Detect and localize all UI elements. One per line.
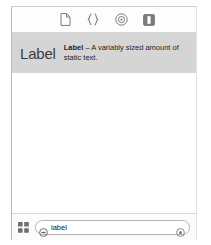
- search-input-value[interactable]: label: [51, 223, 173, 232]
- list-item[interactable]: Label Label – A variably sized amount of…: [12, 33, 196, 73]
- library-toolbar: [12, 7, 196, 33]
- media-square-icon: [143, 14, 155, 26]
- search-input[interactable]: label: [35, 220, 190, 235]
- list-item-name: Label: [64, 43, 84, 52]
- tab-file-templates[interactable]: [58, 12, 73, 27]
- tab-media[interactable]: [142, 12, 157, 27]
- target-circle-icon: [115, 13, 128, 26]
- clear-circle-icon[interactable]: [176, 223, 185, 232]
- list-item-preview-glyph: Label: [20, 45, 56, 62]
- list-item-description: Label – A variably sized amount of stati…: [64, 43, 189, 63]
- tab-objects[interactable]: [114, 12, 129, 27]
- library-results-list[interactable]: Label Label – A variably sized amount of…: [12, 33, 196, 213]
- library-panel: Label Label – A variably sized amount of…: [11, 6, 197, 240]
- filter-token-icon[interactable]: [39, 223, 48, 232]
- list-item-separator: –: [85, 43, 89, 52]
- code-braces-icon: [87, 13, 99, 26]
- screen-canvas: Label Label – A variably sized amount of…: [0, 0, 211, 245]
- file-page-icon: [60, 13, 71, 26]
- tab-code-snippets[interactable]: [86, 12, 101, 27]
- library-bottom-bar: label: [12, 213, 196, 240]
- grid-2x2-icon[interactable]: [17, 221, 30, 234]
